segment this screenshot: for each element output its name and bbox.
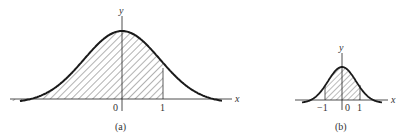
- panel-a: y x 0 1 (a): [10, 5, 240, 133]
- panel-a-tick-1: 1: [160, 102, 165, 113]
- panel-a-x-label: x: [234, 93, 240, 104]
- panel-b-tick-1: 1: [357, 102, 362, 113]
- panel-a-tick-0: 0: [113, 102, 118, 113]
- figure-canvas: y x 0 1 (a) y x −1 0 1 (b): [0, 0, 408, 140]
- panel-b-tick-neg1: −1: [317, 102, 328, 113]
- panel-b-caption: (b): [335, 121, 347, 133]
- panel-b-x-label: x: [390, 94, 396, 105]
- panel-a-y-label: y: [118, 5, 124, 16]
- panel-b: y x −1 0 1 (b): [295, 42, 396, 133]
- panel-b-y-label: y: [338, 42, 344, 53]
- panel-b-tick-0: 0: [345, 102, 350, 113]
- panel-a-shaded-area: [12, 31, 222, 101]
- panel-a-caption: (a): [115, 121, 126, 133]
